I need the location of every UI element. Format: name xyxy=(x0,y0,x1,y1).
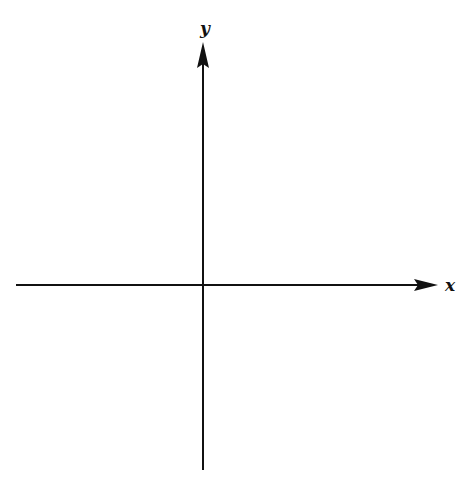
coordinate-axes-diagram: x y xyxy=(0,0,465,489)
y-axis-label: y xyxy=(199,18,211,38)
x-axis-label: x xyxy=(444,275,456,295)
